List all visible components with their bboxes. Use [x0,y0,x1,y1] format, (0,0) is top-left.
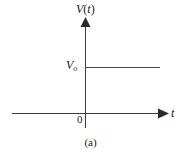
v-axis-arrowhead-icon [81,17,91,27]
v-axis-title-paren-close: ) [91,2,95,16]
origin-label: 0 [77,114,83,125]
plot-canvas [0,0,181,156]
v-level-label-subscript: o [73,64,77,73]
v-axis-title: V(t) [76,3,95,15]
t-axis-arrowhead-icon [158,109,169,119]
step-function-figure: V(t) t Vo 0 (a) [0,0,181,156]
v-level-label: Vo [66,59,77,73]
figure-caption: (a) [0,137,181,148]
t-axis-title: t [171,107,174,119]
